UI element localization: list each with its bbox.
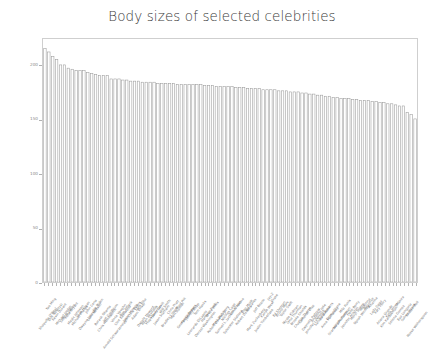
plot-area bbox=[42, 38, 418, 283]
bar bbox=[211, 85, 213, 282]
bar bbox=[309, 94, 311, 282]
bar bbox=[63, 65, 65, 282]
bar bbox=[133, 81, 135, 282]
y-tick-label: 0 bbox=[16, 281, 38, 285]
bar bbox=[274, 90, 276, 282]
bar bbox=[258, 89, 260, 282]
bar bbox=[129, 81, 131, 282]
bar bbox=[141, 82, 143, 282]
bar bbox=[165, 83, 167, 282]
bar bbox=[332, 97, 334, 282]
bars-layer bbox=[43, 39, 417, 282]
bar bbox=[305, 93, 307, 282]
bar bbox=[355, 99, 357, 282]
bar bbox=[149, 82, 151, 282]
bar bbox=[277, 91, 279, 282]
bar bbox=[390, 104, 392, 282]
bar bbox=[394, 105, 396, 282]
bar bbox=[250, 89, 252, 282]
bar bbox=[402, 106, 404, 282]
bar bbox=[118, 79, 120, 282]
bar bbox=[367, 101, 369, 282]
bar bbox=[176, 84, 178, 282]
chart-title: Body sizes of selected celebrities bbox=[0, 8, 444, 24]
bar bbox=[336, 97, 338, 282]
bar bbox=[59, 65, 61, 282]
bar bbox=[180, 84, 182, 282]
bar bbox=[383, 103, 385, 282]
bar bbox=[200, 84, 202, 282]
bar bbox=[196, 84, 198, 282]
bar bbox=[379, 103, 381, 282]
bar bbox=[254, 89, 256, 282]
bar bbox=[301, 93, 303, 282]
y-tick-label: 200 bbox=[16, 63, 38, 67]
y-tick-label: 50 bbox=[16, 226, 38, 230]
bar bbox=[94, 75, 96, 282]
bar bbox=[157, 83, 159, 282]
bar bbox=[44, 49, 46, 282]
bar bbox=[184, 84, 186, 282]
bar bbox=[289, 92, 291, 282]
bar bbox=[313, 94, 315, 282]
bar bbox=[348, 98, 350, 282]
bar bbox=[297, 92, 299, 282]
x-axis-labels: Shaquille O'NealYao MingDirk NowitzkiKev… bbox=[0, 286, 444, 348]
bar bbox=[340, 98, 342, 282]
bar bbox=[410, 115, 412, 282]
bar bbox=[137, 81, 139, 282]
bar bbox=[219, 87, 221, 282]
bar bbox=[102, 76, 104, 282]
bar bbox=[371, 102, 373, 282]
bar bbox=[87, 72, 89, 282]
bar bbox=[188, 84, 190, 282]
bar bbox=[110, 79, 112, 282]
bar bbox=[48, 52, 50, 282]
bar bbox=[239, 88, 241, 282]
bar bbox=[153, 82, 155, 282]
bar bbox=[293, 92, 295, 282]
bar bbox=[375, 102, 377, 282]
bar bbox=[71, 69, 73, 282]
bar bbox=[203, 85, 205, 282]
bar bbox=[75, 70, 77, 282]
bar bbox=[98, 76, 100, 282]
bar bbox=[242, 88, 244, 282]
bar bbox=[328, 96, 330, 282]
bar bbox=[270, 90, 272, 282]
bar bbox=[168, 83, 170, 282]
bar bbox=[344, 98, 346, 282]
bar bbox=[122, 80, 124, 282]
bar bbox=[235, 88, 237, 282]
bar bbox=[192, 84, 194, 282]
bar bbox=[246, 89, 248, 282]
bar bbox=[145, 82, 147, 282]
bar bbox=[363, 101, 365, 282]
bar bbox=[106, 76, 108, 282]
bar bbox=[172, 83, 174, 282]
bar bbox=[262, 90, 264, 282]
bar bbox=[352, 99, 354, 282]
bar bbox=[126, 80, 128, 282]
bar bbox=[161, 83, 163, 282]
bar bbox=[406, 112, 408, 282]
bar bbox=[414, 119, 416, 282]
chart-figure: Body sizes of selected celebrities 05010… bbox=[0, 0, 444, 355]
bar bbox=[79, 70, 81, 282]
bar bbox=[207, 85, 209, 282]
bar bbox=[281, 91, 283, 282]
bar bbox=[359, 101, 361, 282]
bar bbox=[266, 90, 268, 282]
bar bbox=[55, 60, 57, 282]
y-tick-label: 100 bbox=[16, 172, 38, 176]
bar bbox=[83, 70, 85, 282]
y-tick-mark bbox=[39, 283, 42, 284]
bar bbox=[67, 68, 69, 282]
bar bbox=[398, 106, 400, 282]
bar bbox=[231, 87, 233, 282]
bar bbox=[320, 95, 322, 282]
bar bbox=[227, 87, 229, 282]
bar bbox=[324, 96, 326, 282]
bar bbox=[223, 87, 225, 282]
bar bbox=[387, 104, 389, 282]
